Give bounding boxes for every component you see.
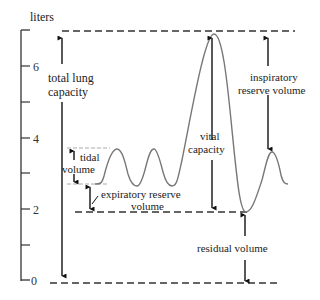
axis-unit-label: liters [30, 10, 54, 24]
tick-label-2: 2 [33, 203, 39, 217]
erv-label-line2: volume [131, 200, 164, 212]
tlc-label-line1: total lung [48, 71, 94, 85]
vc-label-line1: vital [200, 130, 220, 142]
tlc-label-line2: capacity [48, 85, 88, 99]
tidal-label-line2: volume [62, 163, 95, 175]
spirogram-diagram: liters 6 4 2 0 [0, 0, 320, 300]
erv-leader [92, 196, 98, 204]
irv-label-line2: reserve volume [238, 84, 306, 96]
y-axis: liters 6 4 2 0 [21, 10, 54, 288]
volume-curve [95, 34, 288, 212]
tick-label-4: 4 [33, 132, 39, 146]
erv-label-line1: expiratory reserve [101, 188, 181, 200]
vc-label-line2: capacity [188, 143, 225, 155]
rv-label: residual volume [197, 242, 268, 254]
tick-label-0: 0 [31, 274, 37, 288]
irv-label-line1: inspiratory [250, 71, 298, 83]
tidal-label-line1: tidal [80, 151, 100, 163]
tick-label-6: 6 [33, 60, 39, 74]
